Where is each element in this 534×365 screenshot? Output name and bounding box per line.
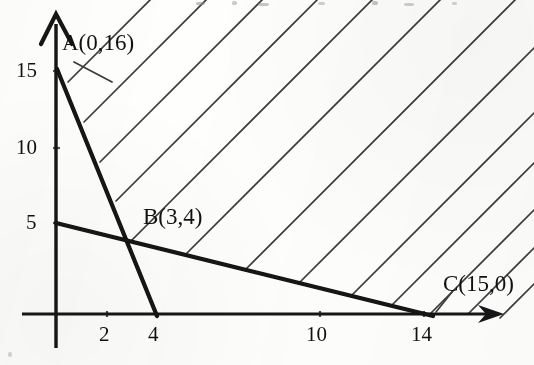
steep-constraint-line	[57, 69, 157, 316]
linear-programming-figure: 15 10 5 2 4 10 14 A(0,16) B(3,4) C(15,0)	[0, 0, 534, 365]
point-a-label: A(0,16)	[62, 31, 134, 54]
hatch-line	[300, 48, 534, 282]
y-tick-label-15: 15	[16, 60, 37, 81]
axes	[22, 14, 504, 348]
point-b-label: B(3,4)	[143, 205, 202, 228]
y-tick-label-5: 5	[26, 212, 37, 233]
point-c-label: C(15,0)	[443, 272, 514, 295]
hatch-line	[116, 0, 386, 201]
hatch-line	[186, 0, 500, 254]
hatch-line	[352, 113, 534, 295]
hatch-line	[100, 0, 330, 162]
y-tick-label-10: 10	[16, 137, 37, 158]
x-tick-label-10: 10	[306, 324, 327, 345]
x-tick-label-14: 14	[411, 324, 432, 345]
hatch-line	[246, 0, 534, 269]
constraint-lines	[56, 69, 433, 316]
hatch-line	[84, 0, 270, 122]
leader-a	[74, 62, 112, 82]
x-tick-label-4: 4	[148, 324, 159, 345]
x-tick-label-2: 2	[99, 324, 110, 345]
